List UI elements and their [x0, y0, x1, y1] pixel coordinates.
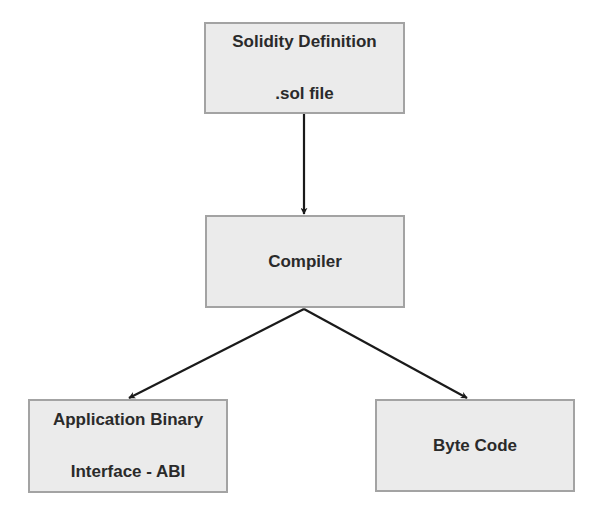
- node-abi-label-line2: Interface - ABI: [53, 459, 203, 485]
- node-bytecode-label: Byte Code: [433, 433, 517, 459]
- node-solidity-definition: Solidity Definition .sol file: [204, 22, 405, 114]
- node-abi-label-line1: Application Binary: [53, 407, 203, 433]
- node-solidity-label-line2: .sol file: [232, 81, 377, 107]
- node-compiler-label: Compiler: [268, 249, 342, 275]
- node-solidity-label-line1: Solidity Definition: [232, 29, 377, 55]
- node-compiler: Compiler: [205, 215, 405, 308]
- node-application-binary-interface: Application Binary Interface - ABI: [28, 399, 228, 493]
- node-byte-code: Byte Code: [375, 399, 575, 492]
- edge-compiler-to-bytecode: [304, 309, 467, 398]
